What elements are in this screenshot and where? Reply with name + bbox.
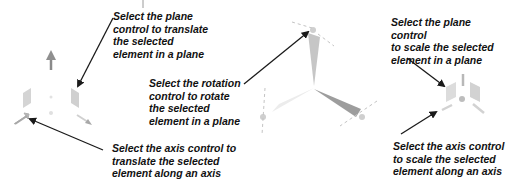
label-scale-axis: Select the axis control to scale the sel…	[393, 140, 504, 178]
scale-gizmo-icon	[442, 74, 484, 113]
label-translate-plane: Select the plane control to translate th…	[113, 10, 208, 60]
label-rotate-plane: Select the rotation control to rotate th…	[149, 77, 241, 127]
arrow-translate-plane	[78, 18, 113, 86]
rotation-gizmo-icon	[260, 22, 377, 135]
arrow-scale-axis	[401, 112, 436, 134]
label-translate-axis: Select the axis control to translate the…	[112, 142, 236, 180]
translate-gizmo-icon	[14, 50, 92, 125]
arrow-translate-axis	[30, 119, 103, 150]
arrow-rotate-plane	[244, 32, 308, 84]
label-scale-plane: Select the plane control to scale the se…	[391, 16, 506, 66]
